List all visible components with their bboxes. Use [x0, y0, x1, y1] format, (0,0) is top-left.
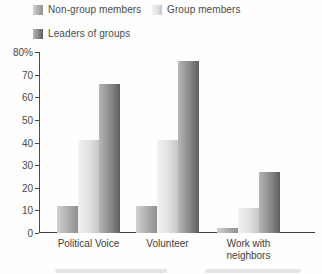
y-axis-tick: [35, 210, 39, 211]
cropped-caption-artifact: [205, 269, 301, 273]
group-members-swatch-icon: [152, 5, 162, 15]
y-axis-tick: [35, 233, 39, 234]
x-category-label: Volunteer: [131, 238, 205, 250]
bar-leaders-of-groups-volunteer: [178, 61, 199, 233]
y-axis-tick: [35, 165, 39, 166]
y-axis-tick-label: 50: [6, 114, 33, 125]
y-axis-tick: [35, 120, 39, 121]
y-axis-tick-label: 80%: [6, 47, 33, 58]
legend-item-leaders-of-groups: Leaders of groups: [33, 28, 130, 39]
x-category-label: Work with neighbors: [212, 238, 286, 262]
legend-item-non-group-members: Non-group members: [33, 4, 141, 15]
y-axis-tick-label: 60: [6, 92, 33, 103]
bar-leaders-of-groups-work-with-neighbors: [259, 172, 280, 233]
cropped-caption-artifact: [55, 269, 167, 273]
bar-group-members-volunteer: [157, 140, 178, 233]
y-axis-tick-label: 0: [6, 228, 33, 239]
legend-item-group-members: Group members: [152, 4, 241, 15]
non-group-members-swatch-icon: [33, 5, 43, 15]
y-axis-tick: [35, 52, 39, 53]
leaders-of-groups-swatch-icon: [33, 29, 43, 39]
y-axis-tick: [35, 188, 39, 189]
legend-label: Group members: [167, 4, 241, 15]
bar-leaders-of-groups-political-voice: [99, 84, 120, 233]
y-axis-tick: [35, 75, 39, 76]
legend-label: Leaders of groups: [48, 28, 130, 39]
y-axis-tick: [35, 97, 39, 98]
bar-non-group-members-work-with-neighbors: [217, 228, 238, 233]
y-axis-tick-label: 70: [6, 69, 33, 80]
bar-group-members-work-with-neighbors: [238, 208, 259, 233]
bar-group-members-political-voice: [78, 140, 99, 233]
y-axis-tick-label: 40: [6, 137, 33, 148]
y-axis-tick-label: 20: [6, 182, 33, 193]
y-axis-tick: [35, 143, 39, 144]
bar-non-group-members-political-voice: [57, 206, 78, 233]
y-axis-tick-label: 10: [6, 205, 33, 216]
y-axis-line: [39, 52, 40, 233]
x-category-label: Political Voice: [52, 238, 126, 250]
y-axis-tick-label: 30: [6, 160, 33, 171]
bar-chart-figure: Non-group members Group members Leaders …: [0, 0, 322, 274]
legend-label: Non-group members: [48, 4, 141, 15]
bar-non-group-members-volunteer: [136, 206, 157, 233]
